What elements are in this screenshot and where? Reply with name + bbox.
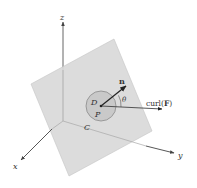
z-axis-label: z <box>59 13 65 22</box>
normal-n-label: n <box>119 76 125 86</box>
y-axis <box>146 146 174 153</box>
x-axis-label: x <box>13 162 18 171</box>
point-P-dot <box>100 105 103 108</box>
curl-surface-diagram: z x y D P C n θ curl(F) <box>0 0 197 188</box>
point-P-label: P <box>94 110 101 119</box>
curl-F-label: curl(F) <box>146 99 172 108</box>
x-axis <box>21 129 52 160</box>
curl-label-suffix: ) <box>169 99 172 108</box>
y-axis-label: y <box>177 151 183 160</box>
curl-label-prefix: curl( <box>146 99 164 108</box>
region-D-label: D <box>90 98 98 107</box>
curve-C-label: C <box>84 123 90 132</box>
